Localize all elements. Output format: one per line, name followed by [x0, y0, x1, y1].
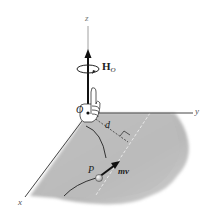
- x-axis-label: x: [18, 198, 22, 207]
- particle-sphere-icon: [96, 175, 103, 182]
- distance-label: d: [105, 120, 110, 130]
- angular-momentum-figure: z HO O y x d P mv: [0, 0, 210, 213]
- y-axis-label: y: [195, 107, 199, 116]
- particle-label: P: [88, 165, 94, 175]
- diagram-canvas: [0, 0, 210, 213]
- origin-label: O: [76, 105, 83, 115]
- angular-momentum-arrowhead: [85, 49, 92, 58]
- origin-point: [86, 111, 89, 114]
- angular-momentum-subscript: O: [111, 66, 116, 74]
- z-axis-label: z: [85, 14, 89, 23]
- angular-momentum-label: HO: [102, 61, 116, 74]
- momentum-label: mv: [118, 167, 129, 176]
- angular-momentum-symbol: H: [102, 60, 111, 72]
